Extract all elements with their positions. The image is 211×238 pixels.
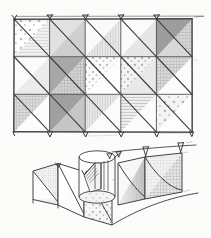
- left-wing-panel-a: [33, 164, 58, 206]
- sketch-sheet: [0, 0, 211, 238]
- sketch-canvas: [0, 0, 211, 238]
- right-panel-gradient: [118, 157, 145, 205]
- right-panel-check: [145, 153, 182, 199]
- panel-grid-elevation: [12, 15, 204, 137]
